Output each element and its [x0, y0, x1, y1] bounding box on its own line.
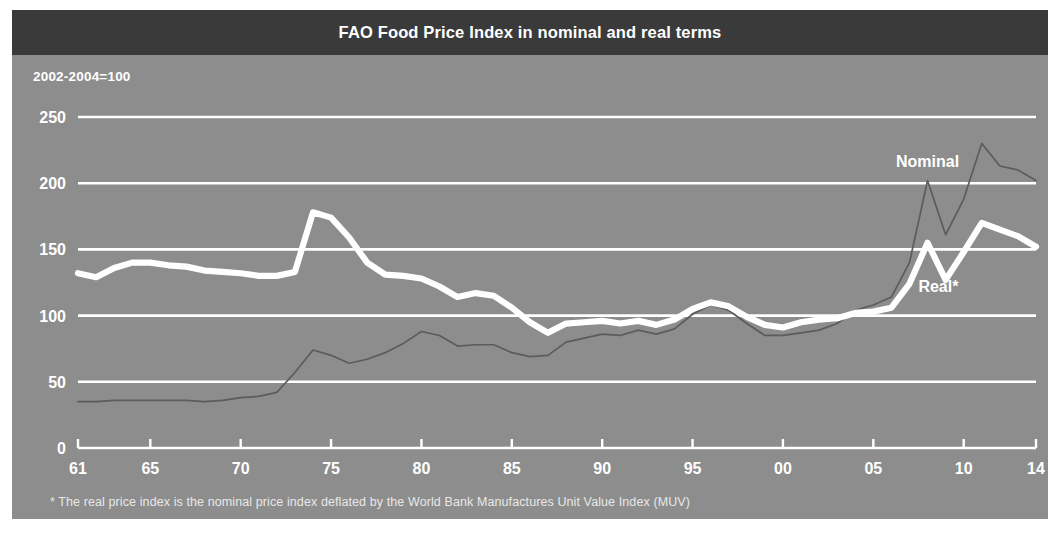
series-label-real: Real* — [918, 278, 959, 295]
y-tick-label: 200 — [39, 175, 66, 192]
series-label-nominal: Nominal — [896, 153, 959, 170]
chart-figure: FAO Food Price Index in nominal and real… — [12, 10, 1048, 519]
x-tick-label: 65 — [141, 460, 159, 477]
page-title: FAO Food Price Index in nominal and real… — [339, 23, 722, 42]
x-tick-label: 61 — [69, 460, 87, 477]
x-tick-label: 75 — [322, 460, 340, 477]
y-tick-label: 0 — [57, 440, 66, 457]
y-tick-label: 150 — [39, 241, 66, 258]
y-axis-tick-labels: 050100150200250 — [39, 109, 66, 457]
x-tick-label: 80 — [413, 460, 431, 477]
x-tick-label: 70 — [232, 460, 250, 477]
x-tick-label: 10 — [955, 460, 973, 477]
x-tick-label: 85 — [503, 460, 521, 477]
y-tick-label: 100 — [39, 308, 66, 325]
chart-canvas: 050100150200250 616570758085909500051014… — [12, 55, 1048, 519]
y-tick-label: 250 — [39, 109, 66, 126]
x-axis-tick-labels: 616570758085909500051014 — [69, 460, 1045, 477]
x-tick-label: 00 — [774, 460, 792, 477]
plot-area: 2002-2004=100 050100150200250 6165707580… — [12, 55, 1048, 519]
chart-title-bar: FAO Food Price Index in nominal and real… — [12, 10, 1048, 55]
x-axis — [78, 439, 1036, 448]
x-tick-label: 05 — [864, 460, 882, 477]
x-tick-label: 14 — [1027, 460, 1045, 477]
x-tick-label: 90 — [593, 460, 611, 477]
footnote: * The real price index is the nominal pr… — [50, 495, 690, 509]
y-tick-label: 50 — [48, 374, 66, 391]
gridlines-group — [78, 117, 1036, 382]
x-tick-label: 95 — [684, 460, 702, 477]
